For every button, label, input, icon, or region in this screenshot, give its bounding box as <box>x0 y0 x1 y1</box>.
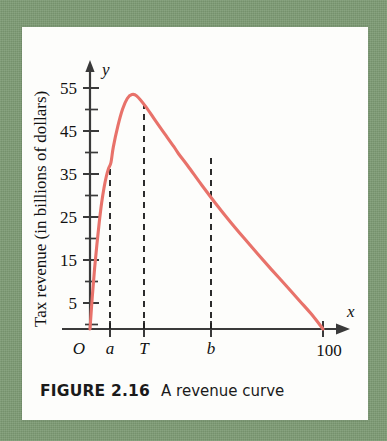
y-axis-title: Tax revenue (in billions of dollars) <box>31 91 50 327</box>
x-tick-label-b: b <box>207 339 216 358</box>
y-tick-label: 55 <box>60 79 77 98</box>
y-axis-variable-label: y <box>100 60 110 79</box>
x-tick-label-T: T <box>139 339 150 358</box>
x-axis <box>62 324 350 335</box>
y-tick-label: 5 <box>69 294 78 313</box>
x-tick-label-100: 100 <box>316 341 342 360</box>
y-tick-label: 45 <box>60 122 77 141</box>
figure-caption-text: A revenue curve <box>161 382 284 400</box>
figure-caption: FIGURE 2.16 A revenue curve <box>40 371 360 411</box>
y-tick-label: 35 <box>60 165 77 184</box>
y-axis-tick-labels: 5 15 25 35 45 55 <box>60 79 77 313</box>
reference-dashed-lines <box>110 100 211 329</box>
chart-plot-area: 5 15 25 35 45 55 a T b 100 <box>22 27 368 367</box>
y-tick-label: 25 <box>60 208 77 227</box>
y-tick-label: 15 <box>60 251 77 270</box>
origin-label: O <box>73 339 85 358</box>
x-axis-tick-labels: a T b 100 <box>106 339 342 360</box>
figure-panel: 5 15 25 35 45 55 a T b 100 <box>22 27 368 420</box>
x-axis-variable-label: x <box>346 302 355 321</box>
revenue-curve-path <box>90 94 323 329</box>
x-tick-label-a: a <box>106 339 115 358</box>
revenue-curve-chart: 5 15 25 35 45 55 a T b 100 <box>22 27 368 367</box>
figure-caption-label: FIGURE 2.16 <box>40 382 150 400</box>
